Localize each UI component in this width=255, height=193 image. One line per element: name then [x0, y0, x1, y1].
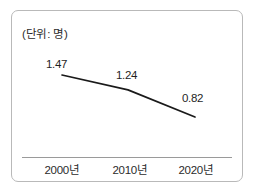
data-line-series	[62, 75, 195, 117]
data-point-label-2000: 1.47	[46, 58, 67, 70]
x-tick-label-2010: 2010년	[102, 161, 158, 177]
data-point-label-2020: 0.82	[182, 92, 203, 104]
x-tick-label-2000: 2000년	[34, 161, 90, 177]
x-tick-label-2020: 2020년	[168, 161, 224, 177]
data-point-label-2010: 1.24	[116, 69, 137, 81]
chart-figure: (단위: 명) 1.47 1.24 0.82 2000년 2010년 2020년	[0, 0, 255, 193]
